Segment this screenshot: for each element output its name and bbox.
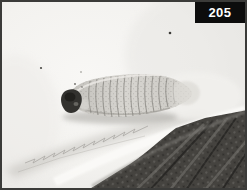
larva-tail-fade [172,81,200,105]
figure-photo: 205 [0,0,247,190]
larva-head-dark-core [65,93,76,102]
larva-head-notch [74,102,79,106]
figure-number-badge: 205 [195,2,245,23]
photo-scene [2,2,245,188]
